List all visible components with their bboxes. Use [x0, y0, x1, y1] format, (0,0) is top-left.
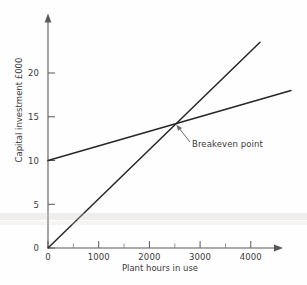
x-tick-label-2000: 2000	[129, 252, 169, 262]
x-tick-label-4000: 4000	[231, 252, 271, 262]
series-hired-plant-line	[48, 91, 291, 161]
x-tick-label-1000: 1000	[79, 252, 119, 262]
x-tick-marks-major	[48, 241, 251, 248]
x-tick-label-0: 0	[28, 252, 68, 262]
y-tick-label-5: 5	[10, 200, 39, 210]
breakeven-chart-figure: 20 15 10 5 0 0 1000 2000 3000 4000 Capit…	[0, 0, 307, 285]
x-axis-title: Plant hours in use	[70, 263, 250, 273]
x-tick-label-3000: 3000	[180, 252, 220, 262]
y-axis-title: Capital investment £000	[14, 50, 24, 170]
y-axis	[45, 14, 52, 249]
breakeven-point-label: Breakeven point	[192, 139, 263, 149]
breakeven-arrow	[176, 125, 190, 142]
x-axis	[48, 245, 283, 252]
